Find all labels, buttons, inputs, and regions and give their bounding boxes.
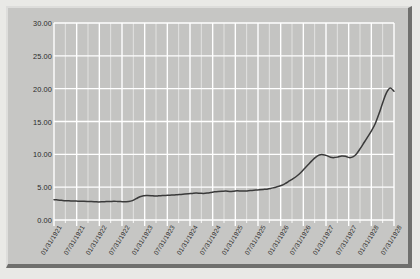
scanned-chart-page: 0.005.0010.0015.0020.0025.0030.00 01/31/… (0, 0, 420, 279)
y-axis-tick-label: 25.00 (10, 51, 52, 60)
chart-line-series (54, 23, 394, 220)
x-axis-tick-label: 01/31/1923 (130, 224, 154, 256)
x-axis-tick-label: 07/31/1922 (107, 224, 131, 256)
x-axis-tick-label: 07/31/1924 (198, 224, 222, 256)
y-axis-labels: 0.005.0010.0015.0020.0025.0030.00 (8, 23, 52, 220)
y-axis-tick-label: 15.00 (10, 117, 52, 126)
y-axis-tick-label: 0.00 (10, 216, 52, 225)
x-axis-tick-label: 01/31/1925 (221, 224, 245, 256)
x-axis-tick-label: 07/31/1921 (62, 224, 86, 256)
x-axis-tick-label: 07/31/1926 (289, 224, 313, 256)
x-axis-tick-label: 07/31/1923 (153, 224, 177, 256)
x-axis-tick-label: 01/31/1927 (311, 224, 335, 256)
chart-canvas: 0.005.0010.0015.0020.0025.0030.00 01/31/… (8, 8, 408, 264)
x-axis-tick-label: 01/31/1921 (39, 224, 63, 256)
x-axis-labels: 01/31/192107/31/192101/31/192207/31/1922… (54, 220, 394, 279)
x-axis-tick-label: 07/31/1925 (243, 224, 267, 256)
x-axis-tick-label: 07/31/1928 (379, 224, 403, 256)
y-axis-tick-label: 5.00 (10, 183, 52, 192)
y-axis-tick-label: 10.00 (10, 150, 52, 159)
x-axis-tick-label: 01/31/1926 (266, 224, 290, 256)
y-axis-tick-label: 20.00 (10, 84, 52, 93)
plot-area (54, 23, 394, 220)
x-axis-tick-label: 01/31/1928 (357, 224, 381, 256)
chart-frame-bevel: 0.005.0010.0015.0020.0025.0030.00 01/31/… (6, 6, 412, 268)
y-axis-tick-label: 30.00 (10, 19, 52, 28)
x-axis-tick-label: 07/31/1927 (334, 224, 358, 256)
x-axis-tick-label: 01/31/1924 (175, 224, 199, 256)
x-axis-tick-label: 01/31/1922 (85, 224, 109, 256)
